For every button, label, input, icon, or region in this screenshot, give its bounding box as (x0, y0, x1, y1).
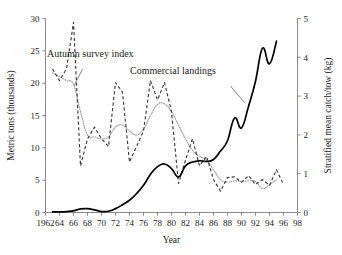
x-tick-label: 66 (69, 218, 79, 228)
chart-canvas: 1962646668707274767880828486889092949698… (0, 0, 342, 255)
x-tick-label: 98 (293, 218, 303, 228)
x-tick-label: 90 (237, 218, 247, 228)
y-tick-label-right: 2 (304, 130, 309, 140)
y-tick-label-right: 3 (304, 91, 309, 101)
x-tick-label: 92 (251, 218, 260, 228)
annotation-label: Commercial landings (130, 65, 216, 76)
y-tick-label-left: 10 (31, 143, 41, 153)
x-tick-label: 70 (97, 218, 107, 228)
y-tick-label-left: 0 (35, 208, 40, 218)
x-tick-label: 82 (181, 218, 190, 228)
x-tick-label: 94 (265, 218, 275, 228)
y-tick-label-right: 1 (304, 169, 309, 179)
x-tick-label: 74 (125, 218, 135, 228)
x-tick-label: 84 (195, 218, 205, 228)
x-axis-title: Year (163, 235, 181, 245)
x-tick-label: 78 (153, 218, 163, 228)
y-axis-title-right: Stratified mean catch/tow (kg) (323, 58, 334, 174)
annotation-leader-line (230, 86, 245, 103)
y-tick-label-left: 15 (31, 111, 41, 121)
x-tick-label: 88 (223, 218, 233, 228)
y-tick-label-right: 0 (304, 208, 309, 218)
x-tick-label: 96 (279, 218, 289, 228)
y-tick-label-left: 25 (31, 46, 41, 56)
x-tick-label: 68 (83, 218, 93, 228)
y-tick-label-left: 20 (31, 78, 41, 88)
y-tick-label-right: 4 (304, 53, 309, 63)
x-tick-label: 1962 (37, 218, 55, 228)
axes-group: 1962646668707274767880828486889092949698… (31, 14, 309, 228)
y-tick-label-left: 30 (31, 14, 41, 24)
series-line-autumn-survey-smoothed: Autumn survey index (smoothed) (53, 73, 277, 189)
x-tick-label: 64 (55, 218, 65, 228)
y-axis-title-left: Metric tons (thousands) (6, 70, 17, 160)
y-tick-label-right: 5 (304, 14, 309, 24)
x-tick-label: 76 (139, 218, 149, 228)
figure-container: 1962646668707274767880828486889092949698… (0, 0, 342, 255)
y-tick-label-left: 5 (35, 175, 40, 185)
x-tick-label: 72 (111, 218, 120, 228)
annotation-label: Autumn survey index (47, 48, 134, 59)
x-tick-label: 86 (209, 218, 219, 228)
x-tick-label: 80 (167, 218, 177, 228)
axis-titles-group: YearMetric tons (thousands)Stratified me… (6, 58, 334, 245)
